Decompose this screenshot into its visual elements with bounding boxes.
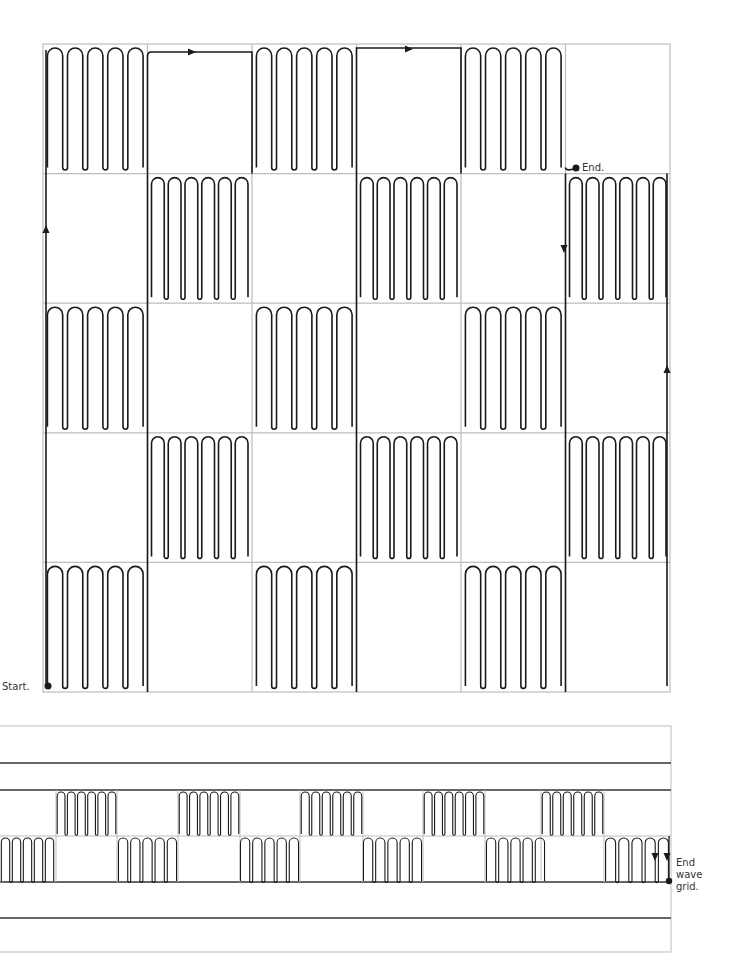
wave-strip-frame bbox=[0, 726, 671, 952]
end-wave-grid-label: End wave grid. bbox=[676, 857, 716, 893]
wave-strip-waves bbox=[1, 792, 669, 883]
start-label: Start. bbox=[2, 681, 30, 693]
main-connector-path bbox=[46, 48, 667, 692]
end-label: End. bbox=[582, 162, 604, 174]
wave-grid-diagram bbox=[0, 0, 730, 962]
